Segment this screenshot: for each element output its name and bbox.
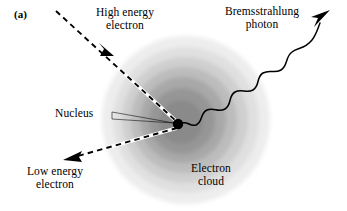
panel-label: (a) (14, 8, 27, 21)
outgoing-electron-arrowhead (63, 151, 82, 162)
label-low-energy-electron: Low energy electron (12, 165, 98, 190)
label-electron-cloud: Electron cloud (178, 162, 244, 187)
nucleus-dot (173, 119, 183, 129)
label-high-energy-electron: High energy electron (82, 6, 168, 31)
label-nucleus: Nucleus (55, 107, 111, 120)
incoming-electron-arrowhead (99, 43, 114, 56)
label-bremsstrahlung-photon: Bremsstrahlung photon (208, 5, 316, 30)
bremsstrahlung-figure: (a) High energy electron Bremsstrahlung … (0, 0, 347, 211)
